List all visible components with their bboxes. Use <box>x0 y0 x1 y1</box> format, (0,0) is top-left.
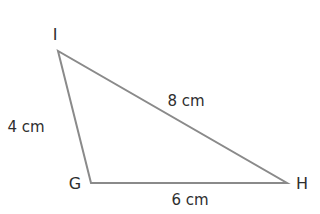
side-length-gh: 6 cm <box>171 193 208 208</box>
vertex-label-g: G <box>69 176 81 192</box>
side-length-ig: 4 cm <box>7 120 44 135</box>
triangle-diagram <box>0 0 320 214</box>
vertex-label-h: H <box>296 176 308 192</box>
triangle-igh <box>58 51 287 183</box>
vertex-label-i: I <box>53 27 58 43</box>
side-length-ih: 8 cm <box>167 94 204 109</box>
